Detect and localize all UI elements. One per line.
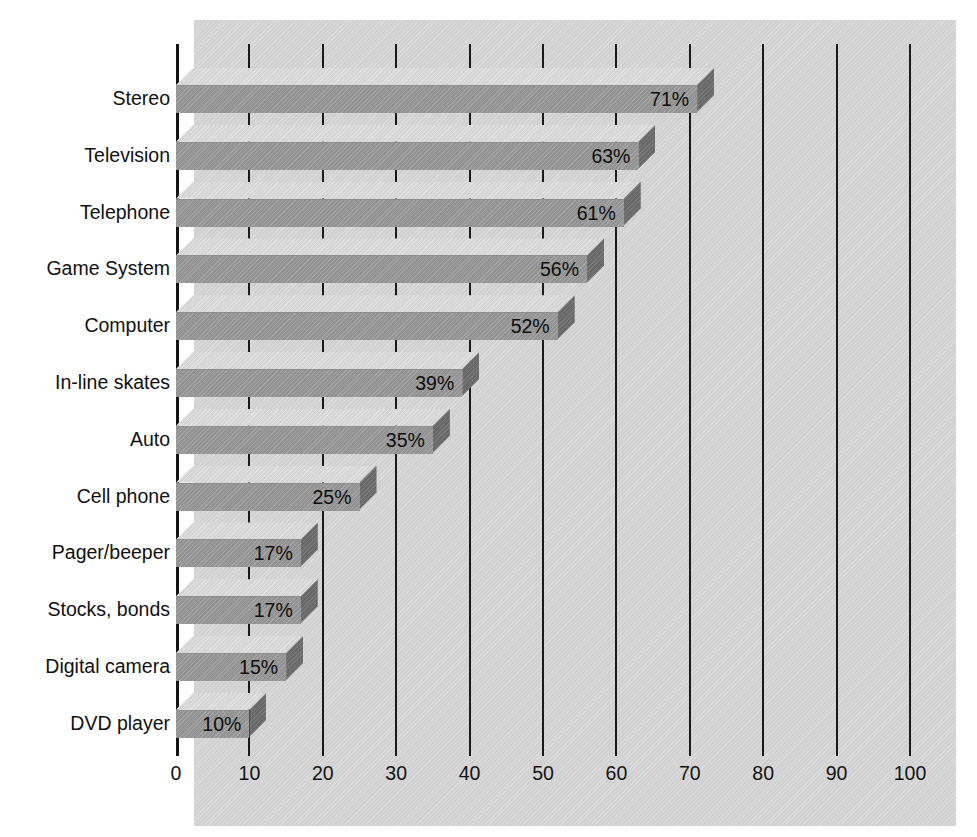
bar-chart: 71%63%61%56%52%39%35%25%17%17%15%10% Ste… bbox=[0, 0, 977, 837]
category-label-11: DVD player bbox=[0, 712, 170, 735]
category-label-5: In-line skates bbox=[0, 371, 170, 394]
category-label-7: Cell phone bbox=[0, 485, 170, 508]
bar-value-label: 52% bbox=[511, 315, 550, 338]
bar-front-face: 10% bbox=[176, 710, 249, 738]
bar-value-label: 10% bbox=[202, 713, 241, 736]
category-label-2: Telephone bbox=[0, 201, 170, 224]
gridline-70 bbox=[689, 44, 691, 756]
bar-front-face: 39% bbox=[176, 369, 462, 397]
bar-front-face: 25% bbox=[176, 483, 360, 511]
bar-top-face bbox=[176, 352, 479, 369]
bar-front-face: 35% bbox=[176, 426, 433, 454]
bar-value-label: 25% bbox=[312, 486, 351, 509]
bar-value-label: 17% bbox=[254, 542, 293, 565]
bar-value-label: 56% bbox=[540, 258, 579, 281]
x-tick-label-20: 20 bbox=[312, 762, 334, 785]
bar-top-face bbox=[176, 579, 318, 596]
x-tick-label-10: 10 bbox=[239, 762, 261, 785]
bar-front-face: 52% bbox=[176, 312, 558, 340]
x-tick-label-40: 40 bbox=[459, 762, 481, 785]
category-label-10: Digital camera bbox=[0, 655, 170, 678]
bar-top-face bbox=[176, 636, 303, 653]
bar-top-face bbox=[176, 466, 377, 483]
category-label-4: Computer bbox=[0, 314, 170, 337]
bar-value-label: 17% bbox=[254, 599, 293, 622]
category-label-3: Game System bbox=[0, 257, 170, 280]
gridline-100 bbox=[909, 44, 911, 756]
bar-value-label: 15% bbox=[239, 656, 278, 679]
bar-top-face bbox=[176, 409, 450, 426]
bar-top-face bbox=[176, 182, 641, 199]
bar-front-face: 63% bbox=[176, 142, 638, 170]
category-label-1: Television bbox=[0, 144, 170, 167]
bar-front-face: 17% bbox=[176, 596, 301, 624]
x-tick-label-50: 50 bbox=[532, 762, 554, 785]
x-tick-label-30: 30 bbox=[385, 762, 407, 785]
bar-front-face: 56% bbox=[176, 255, 587, 283]
category-label-8: Pager/beeper bbox=[0, 541, 170, 564]
bar-top-face bbox=[176, 238, 604, 255]
bar-front-face: 61% bbox=[176, 199, 624, 227]
bar-top-face bbox=[176, 295, 575, 312]
category-label-0: Stereo bbox=[0, 87, 170, 110]
bar-top-face bbox=[176, 68, 714, 85]
x-tick-label-0: 0 bbox=[171, 762, 182, 785]
bar-value-label: 39% bbox=[415, 372, 454, 395]
bar-front-face: 17% bbox=[176, 539, 301, 567]
bar-top-face bbox=[176, 522, 318, 539]
bar-front-face: 71% bbox=[176, 85, 697, 113]
gridline-90 bbox=[836, 44, 838, 756]
bar-value-label: 61% bbox=[577, 202, 616, 225]
x-tick-label-80: 80 bbox=[752, 762, 774, 785]
x-tick-label-60: 60 bbox=[606, 762, 628, 785]
category-label-6: Auto bbox=[0, 428, 170, 451]
bar-value-label: 63% bbox=[591, 145, 630, 168]
x-tick-label-100: 100 bbox=[894, 762, 927, 785]
bar-value-label: 71% bbox=[650, 88, 689, 111]
x-tick-label-70: 70 bbox=[679, 762, 701, 785]
bar-front-face: 15% bbox=[176, 653, 286, 681]
x-tick-label-90: 90 bbox=[826, 762, 848, 785]
category-label-9: Stocks, bonds bbox=[0, 598, 170, 621]
bar-value-label: 35% bbox=[386, 429, 425, 452]
bar-top-face bbox=[176, 125, 655, 142]
gridline-80 bbox=[762, 44, 764, 756]
